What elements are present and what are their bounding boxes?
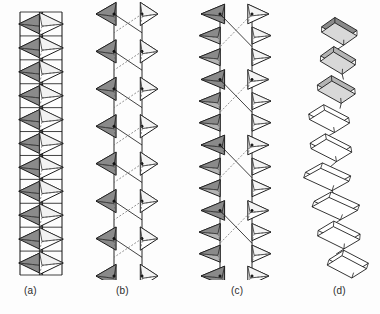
- chain-a-drawing: [18, 0, 64, 280]
- chain-panel-c: [196, 0, 274, 280]
- chain-panel-b: [96, 0, 158, 280]
- panel-caption-a: (a): [24, 285, 37, 296]
- figure-polyhedral-chains: (a) (b) (c) (d): [0, 0, 380, 314]
- chain-panel-a: [18, 0, 64, 280]
- panel-caption-b: (b): [116, 285, 129, 296]
- chain-b-drawing: [96, 0, 158, 280]
- panel-caption-d: (d): [333, 285, 346, 296]
- chain-panel-d: [300, 0, 378, 280]
- panel-caption-c: (c): [231, 285, 243, 296]
- chain-c-drawing: [196, 0, 274, 280]
- chain-d-drawing: [300, 0, 378, 280]
